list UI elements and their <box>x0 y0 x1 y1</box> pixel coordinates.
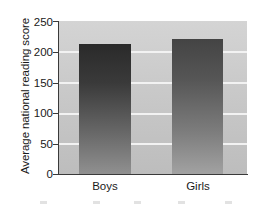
bar-girls[interactable] <box>172 39 223 174</box>
x-axis-line <box>58 174 248 175</box>
scan-artifact-strip <box>0 199 259 207</box>
y-tick-label-150: 150 <box>25 78 53 88</box>
scan-artifact <box>40 201 47 204</box>
y-tick-label-0: 0 <box>25 169 53 179</box>
plot-area <box>59 21 247 174</box>
y-tick-label-200: 200 <box>25 47 53 57</box>
y-tick-label-100: 100 <box>25 108 53 118</box>
bar-boys[interactable] <box>79 44 131 174</box>
y-tick-label-50: 50 <box>25 139 53 149</box>
scan-artifact <box>134 201 141 204</box>
x-tick-label-boys: Boys <box>75 180 135 193</box>
y-axis-tick-labels: 250 200 150 100 50 0 <box>22 0 53 207</box>
y-tick-label-250: 250 <box>25 17 53 27</box>
bar-chart-figure: Average national reading score 250 200 1… <box>0 0 259 207</box>
x-tick-label-girls: Girls <box>168 180 228 193</box>
scan-artifact <box>93 201 100 204</box>
scan-artifact <box>225 201 232 204</box>
scan-artifact <box>178 201 185 204</box>
